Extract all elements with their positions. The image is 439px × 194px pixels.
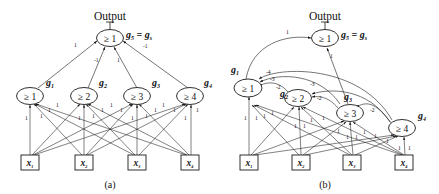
svg-text:1: 1 bbox=[78, 115, 81, 121]
output-label-b: Output bbox=[309, 10, 342, 23]
svg-text:1: 1 bbox=[363, 129, 366, 135]
node-g1-a[interactable]: ≥ 1 bbox=[17, 88, 44, 105]
cascade-w2: -3 bbox=[270, 76, 275, 82]
output-eq-b: g5 = gs bbox=[340, 29, 368, 41]
svg-text:1: 1 bbox=[110, 102, 113, 108]
node-output-a[interactable]: ≥ 1 bbox=[97, 30, 124, 47]
svg-text:1: 1 bbox=[154, 107, 157, 113]
svg-text:1: 1 bbox=[263, 113, 266, 119]
svg-text:1: 1 bbox=[244, 115, 247, 121]
out-weight-a-1: 1 bbox=[74, 42, 77, 48]
node-g2-b[interactable]: ≥ 2 bbox=[285, 90, 312, 107]
out-weight-a-4: -1 bbox=[143, 43, 148, 49]
svg-text:1: 1 bbox=[271, 110, 274, 116]
svg-text:1: 1 bbox=[310, 117, 313, 123]
cascade-w6: -2 bbox=[370, 107, 375, 113]
node-g2-a-label: ≥ 2 bbox=[78, 92, 91, 102]
node-g3-b-label: ≥ 3 bbox=[344, 109, 357, 119]
svg-text:1: 1 bbox=[255, 115, 258, 121]
node-g2-a[interactable]: ≥ 2 bbox=[71, 88, 98, 105]
figure-container: Output 11 11 11 11 bbox=[0, 0, 439, 194]
cascade-w5: -2 bbox=[317, 95, 322, 101]
input-x2-a[interactable]: x2 bbox=[75, 155, 93, 170]
svg-text:1: 1 bbox=[355, 134, 358, 140]
svg-text:1: 1 bbox=[346, 134, 349, 140]
input-x2-b[interactable]: x2 bbox=[292, 155, 310, 170]
node-g4-b-label: ≥ 4 bbox=[396, 124, 409, 134]
input-x4-b[interactable]: x4 bbox=[395, 155, 413, 170]
svg-text:1: 1 bbox=[92, 113, 95, 119]
input-x4-a[interactable]: x4 bbox=[181, 155, 199, 170]
svg-text:1: 1 bbox=[303, 123, 306, 129]
svg-text:1: 1 bbox=[48, 107, 51, 113]
output-eq-a: g5 = gs bbox=[125, 29, 153, 41]
svg-text:1: 1 bbox=[196, 107, 199, 113]
svg-text:1: 1 bbox=[25, 115, 28, 121]
svg-text:1: 1 bbox=[40, 113, 43, 119]
node-g4-a-label: ≥ 4 bbox=[184, 92, 197, 102]
svg-text:1: 1 bbox=[162, 102, 165, 108]
svg-text:1: 1 bbox=[294, 123, 297, 129]
input-x3-a[interactable]: x3 bbox=[128, 155, 146, 170]
input-x3-b[interactable]: x3 bbox=[343, 155, 361, 170]
input-x1-b[interactable]: x1 bbox=[240, 155, 258, 170]
cascade-w4: -3 bbox=[310, 81, 315, 87]
svg-text:1: 1 bbox=[322, 115, 325, 121]
out-weight-b-1: 1 bbox=[286, 29, 289, 35]
node-g3-a[interactable]: ≥ 3 bbox=[124, 88, 151, 105]
node-g4-a[interactable]: ≥ 4 bbox=[177, 88, 204, 105]
out-weight-a-2: -1 bbox=[94, 57, 99, 63]
node-output-a-label: ≥ 1 bbox=[104, 34, 117, 44]
out-weight-b-2: 1 bbox=[330, 53, 333, 59]
panel-caption-b: (b) bbox=[319, 179, 331, 191]
node-g2-b-label: ≥ 2 bbox=[292, 94, 305, 104]
node-output-b-label: ≥ 1 bbox=[319, 34, 332, 44]
node-g4-b[interactable]: ≥ 4 bbox=[389, 120, 416, 137]
network-diagram-svg: Output 11 11 11 11 bbox=[0, 0, 439, 194]
svg-text:1: 1 bbox=[184, 115, 187, 121]
node-g1-b-label: ≥ 1 bbox=[242, 84, 255, 94]
panel-caption-a: (a) bbox=[104, 179, 115, 191]
svg-text:1: 1 bbox=[173, 107, 176, 113]
out-weight-a-3: 1 bbox=[117, 57, 120, 63]
node-g3-b[interactable]: ≥ 3 bbox=[337, 105, 364, 122]
svg-text:1: 1 bbox=[101, 107, 104, 113]
svg-text:1: 1 bbox=[145, 113, 148, 119]
svg-text:1: 1 bbox=[374, 133, 377, 139]
node-g1-a-label: ≥ 1 bbox=[24, 92, 37, 102]
svg-text:1: 1 bbox=[386, 138, 389, 144]
svg-text:1: 1 bbox=[398, 145, 401, 151]
node-g1-b[interactable]: ≥ 1 bbox=[234, 79, 262, 97]
input-x1-a[interactable]: x1 bbox=[21, 155, 39, 170]
node-output-b[interactable]: ≥ 1 bbox=[312, 30, 339, 47]
svg-text:1: 1 bbox=[337, 128, 340, 134]
svg-text:1: 1 bbox=[120, 107, 123, 113]
output-label-a: Output bbox=[94, 10, 127, 23]
node-g3-a-label: ≥ 3 bbox=[131, 92, 144, 102]
svg-text:1: 1 bbox=[408, 145, 411, 151]
svg-text:1: 1 bbox=[131, 115, 134, 121]
svg-text:1: 1 bbox=[56, 102, 59, 108]
cascade-w1: -4 bbox=[266, 69, 271, 75]
